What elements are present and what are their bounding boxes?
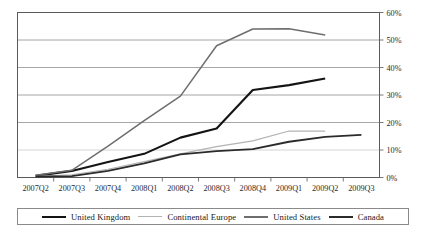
y-axis-label: 40% — [387, 64, 402, 73]
x-axis-label: 2007Q2 — [22, 184, 48, 193]
y-axis-label: 50% — [387, 36, 402, 45]
x-axis-ticks — [54, 13, 384, 182]
x-axis-label: 2007Q3 — [59, 184, 85, 193]
series-line-canada — [36, 135, 362, 177]
x-axis-label: 2009Q1 — [276, 184, 302, 193]
x-axis-label: 2008Q3 — [203, 184, 229, 193]
legend-item-united-states: United States — [244, 212, 320, 222]
y-axis-tick-labels: 0%10%20%30%40%50%60% — [387, 9, 402, 183]
y-axis-label: 60% — [387, 9, 402, 18]
chart-legend: United Kingdom Continental Europe United… — [17, 208, 409, 225]
data-series-lines — [36, 29, 362, 177]
line-chart-plot: 0%10%20%30%40%50%60% 2007Q22007Q32007Q42… — [0, 0, 427, 233]
legend-label-continental-europe: Continental Europe — [167, 212, 236, 222]
legend-label-united-states: United States — [273, 212, 320, 222]
legend-item-united-kingdom: United Kingdom — [42, 212, 130, 222]
legend-item-canada: Canada — [329, 212, 384, 222]
gridlines — [18, 13, 380, 151]
legend-label-united-kingdom: United Kingdom — [71, 212, 130, 222]
x-axis-label: 2007Q4 — [95, 184, 121, 193]
legend-swatch-continental-europe — [138, 216, 162, 217]
y-axis-label: 20% — [387, 119, 402, 128]
x-axis-label: 2009Q3 — [348, 184, 374, 193]
y-axis-label: 10% — [387, 146, 402, 155]
y-axis-label: 30% — [387, 91, 402, 100]
x-axis-label: 2009Q2 — [312, 184, 338, 193]
legend-label-canada: Canada — [358, 212, 384, 222]
chart-container: 0%10%20%30%40%50%60% 2007Q22007Q32007Q42… — [0, 0, 427, 233]
legend-swatch-canada — [329, 216, 353, 218]
x-axis-label: 2008Q4 — [240, 184, 266, 193]
x-axis-tick-labels: 2007Q22007Q32007Q42008Q12008Q22008Q32008… — [22, 184, 374, 193]
x-axis-label: 2008Q2 — [167, 184, 193, 193]
legend-item-continental-europe: Continental Europe — [138, 212, 236, 222]
x-axis-label: 2008Q1 — [131, 184, 157, 193]
series-line-united-kingdom — [36, 79, 326, 176]
y-axis-label: 0% — [387, 174, 398, 183]
legend-swatch-united-states — [244, 216, 268, 218]
legend-swatch-united-kingdom — [42, 216, 66, 218]
